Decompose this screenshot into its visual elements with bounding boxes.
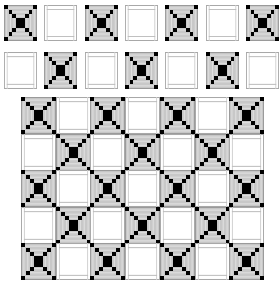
x-block-tile [85,5,118,41]
plain-block-tile [160,207,195,244]
x-block-tile [125,52,158,89]
x-block-tile [246,5,279,41]
assembled-quilt-grid [21,97,264,280]
x-block-tile [21,243,56,280]
block-strip-2 [0,52,280,89]
x-block-tile [195,134,230,171]
plain-block-tile [90,134,125,171]
plain-block-tile [246,52,279,89]
plain-block-tile [125,5,158,41]
plain-block-tile [165,52,198,89]
plain-block-tile [229,134,264,171]
plain-block-tile [4,52,37,89]
x-block-tile [21,170,56,207]
x-block-tile [229,243,264,280]
plain-block-tile [56,97,91,134]
x-block-tile [4,5,37,41]
x-block-tile [90,243,125,280]
plain-block-tile [44,5,77,41]
x-block-tile [160,97,195,134]
plain-block-tile [21,134,56,171]
x-block-tile [90,97,125,134]
plain-block-tile [195,243,230,280]
plain-block-tile [125,243,160,280]
x-block-tile [229,97,264,134]
plain-block-tile [195,170,230,207]
x-block-tile [206,52,239,89]
x-block-tile [165,5,198,41]
plain-block-tile [125,170,160,207]
x-block-tile [160,243,195,280]
plain-block-tile [195,97,230,134]
x-block-tile [125,207,160,244]
x-block-tile [195,207,230,244]
plain-block-tile [56,170,91,207]
block-strip-1 [0,5,280,41]
plain-block-tile [125,97,160,134]
plain-block-tile [229,207,264,244]
x-block-tile [44,52,77,89]
x-block-tile [56,207,91,244]
plain-block-tile [90,207,125,244]
plain-block-tile [56,243,91,280]
x-block-tile [160,170,195,207]
x-block-tile [21,97,56,134]
x-block-tile [125,134,160,171]
x-block-tile [56,134,91,171]
plain-block-tile [160,134,195,171]
x-block-tile [229,170,264,207]
plain-block-tile [206,5,239,41]
x-block-tile [90,170,125,207]
plain-block-tile [21,207,56,244]
plain-block-tile [85,52,118,89]
